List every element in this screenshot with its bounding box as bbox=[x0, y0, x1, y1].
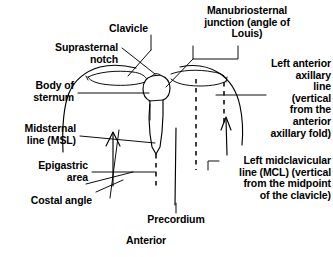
right-clavicle-tip bbox=[86, 76, 88, 80]
label-epigastric-area: Epigastric area bbox=[8, 160, 88, 183]
label-manubriosternal-junction: Manubriosternal junction (angle of Louis… bbox=[187, 5, 307, 40]
label-clavicle: Clavicle bbox=[86, 23, 148, 35]
leader-costal-angle bbox=[96, 180, 123, 192]
label-anterior: Anterior bbox=[111, 235, 181, 247]
left-clavicle-lower bbox=[171, 79, 226, 86]
manubriosternal-junction-mark bbox=[149, 100, 163, 101]
leader-manubriosternal-bracket bbox=[193, 46, 238, 59]
label-suprasternal-notch: Suprasternal notch bbox=[24, 42, 118, 65]
label-costal-angle: Costal angle bbox=[10, 195, 92, 207]
left-clavicle bbox=[171, 70, 226, 78]
label-left-anterior-axillary-line: Left anterior axillary line (vertical fr… bbox=[237, 58, 331, 139]
costal-angle-right-ray bbox=[86, 172, 133, 184]
label-body-of-sternum: Body of sternum bbox=[4, 80, 74, 103]
leader-clavicle-2 bbox=[128, 50, 151, 76]
label-midsternal-line: Midsternal line (MSL) bbox=[0, 123, 76, 146]
label-left-midclavicular-line: Left midclavicular line (MCL) (vertical … bbox=[211, 155, 331, 201]
axillary-fold-arrow bbox=[221, 117, 231, 155]
leader-suprasternal-notch bbox=[122, 48, 155, 74]
leader-manubriosternal-down bbox=[166, 59, 193, 87]
precordium-marker bbox=[175, 128, 176, 205]
torso-outline-right bbox=[180, 66, 243, 145]
right-clavicle bbox=[88, 71, 146, 78]
right-clavicle-lower bbox=[88, 77, 145, 85]
label-precordium: Precordium bbox=[139, 214, 213, 226]
